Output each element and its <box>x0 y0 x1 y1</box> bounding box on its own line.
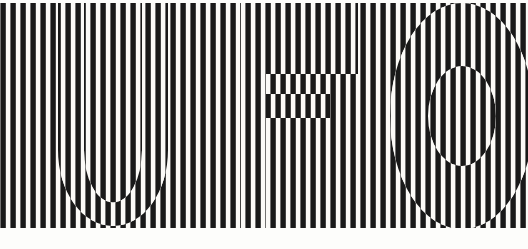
print-grain-overlay <box>0 0 528 249</box>
striped-ufo-illustration <box>0 0 528 249</box>
artwork-canvas: Op-art poster: the word UFO formed by in… <box>0 0 528 249</box>
